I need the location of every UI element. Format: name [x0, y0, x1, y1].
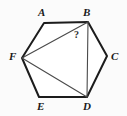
vertex-label-D: D: [83, 101, 91, 112]
geometry-figure: A B C D E F ?: [0, 0, 127, 116]
vertex-label-C: C: [111, 51, 118, 62]
hexagon-diagram-svg: [0, 0, 127, 116]
vertex-label-B: B: [83, 7, 90, 18]
vertex-label-A: A: [38, 7, 45, 18]
angle-marker-question: ?: [74, 30, 79, 40]
vertex-label-E: E: [37, 101, 44, 112]
vertex-label-F: F: [9, 51, 16, 62]
